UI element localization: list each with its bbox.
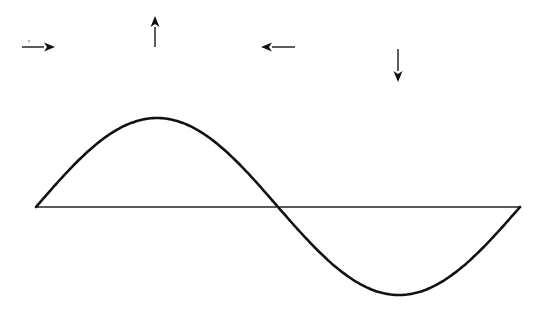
arrow-head [44,43,55,52]
arrow-up-icon [151,16,160,47]
direction-arrows [22,16,403,82]
arrow-left-icon [261,43,295,52]
arrow-head [261,43,272,52]
small-dot-mark [28,40,31,43]
sine-wave-diagram [0,0,542,315]
arrow-right-icon [22,43,55,52]
arrow-head [151,16,160,27]
arrow-down-icon [394,49,403,82]
arrow-head [394,71,403,82]
